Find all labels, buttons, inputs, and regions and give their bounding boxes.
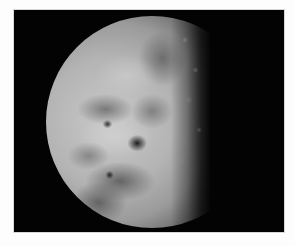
page (0, 0, 295, 246)
moon-clip (14, 10, 284, 232)
terminator-craters (164, 20, 234, 220)
terminator-shadow (14, 10, 284, 232)
moon-photograph (14, 10, 284, 232)
